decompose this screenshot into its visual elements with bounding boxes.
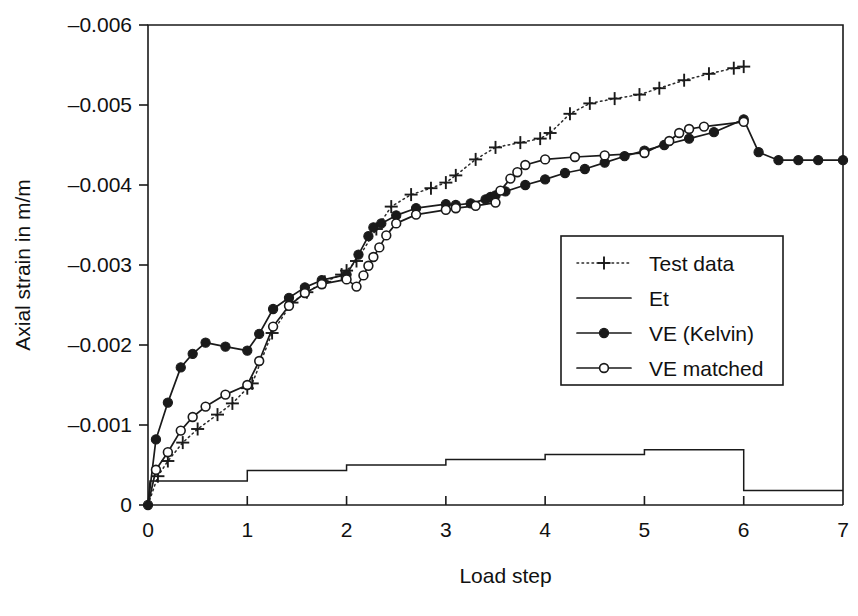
data-point-marker: [188, 413, 197, 422]
data-point-marker: [151, 435, 160, 444]
y-axis-tick-label: –0.002: [68, 333, 132, 356]
data-point-marker: [243, 381, 252, 390]
data-point-marker: [541, 155, 550, 164]
y-axis-tick-label: –0.004: [68, 173, 133, 196]
data-point-marker: [620, 152, 629, 161]
data-point-marker: [709, 128, 718, 137]
data-point-marker: [163, 398, 172, 407]
axis-titles-layer: Load stepAxial strain in m/m: [11, 179, 552, 587]
data-point-marker: [342, 275, 351, 284]
data-point-marker: [640, 149, 649, 158]
data-point-marker: [600, 151, 609, 160]
data-point-marker: [255, 357, 264, 366]
data-point-marker: [176, 363, 185, 372]
data-point-marker: [451, 204, 460, 213]
y-axis-tick-label: 0: [120, 493, 132, 516]
data-point-marker: [794, 156, 803, 165]
data-point-marker: [774, 156, 783, 165]
data-point-marker: [739, 117, 748, 126]
legend-item-label: Test data: [649, 252, 735, 275]
data-point-marker: [300, 289, 309, 298]
x-axis-tick-label: 4: [539, 518, 551, 541]
chart-figure: 0–0.001–0.002–0.003–0.004–0.005–0.006012…: [0, 0, 858, 616]
data-point-marker: [377, 219, 386, 228]
data-point-marker: [665, 137, 674, 146]
data-point-marker: [176, 426, 185, 435]
series-path: [148, 450, 843, 505]
data-point-marker: [255, 329, 264, 338]
data-point-marker: [685, 134, 694, 143]
data-point-marker: [521, 161, 530, 170]
data-point-marker: [364, 261, 373, 270]
data-point-marker: [221, 342, 230, 351]
data-point-marker: [382, 231, 391, 240]
data-point-marker: [754, 148, 763, 157]
data-point-marker: [513, 168, 522, 177]
x-axis-tick-label: 0: [142, 518, 154, 541]
y-axis-tick-label: –0.005: [68, 93, 132, 116]
x-axis-title: Load step: [459, 564, 551, 587]
data-point-marker: [152, 465, 161, 474]
data-point-marker: [375, 243, 384, 252]
y-axis-title: Axial strain in m/m: [11, 179, 34, 351]
y-axis-tick-label: –0.003: [68, 253, 132, 276]
data-point-marker: [814, 156, 823, 165]
x-axis-tick-label: 2: [341, 518, 353, 541]
data-point-marker: [392, 219, 401, 228]
data-point-marker: [441, 205, 450, 214]
data-point-marker: [201, 402, 210, 411]
chart-plot-svg: 0–0.001–0.002–0.003–0.004–0.005–0.006012…: [0, 0, 858, 616]
legend-layer[interactable]: Test dataEtVE (Kelvin)VE matched: [561, 236, 783, 385]
data-point-marker: [521, 180, 530, 189]
data-point-marker: [685, 125, 694, 134]
legend-item-label: VE (Kelvin): [649, 322, 754, 345]
data-point-marker: [675, 129, 684, 138]
data-point-marker: [560, 168, 569, 177]
data-point-marker: [700, 122, 709, 131]
x-axis-tick-label: 1: [241, 518, 253, 541]
legend-item-label: Et: [649, 287, 669, 310]
data-point-marker: [221, 390, 230, 399]
data-point-marker: [412, 210, 421, 219]
data-point-marker: [317, 280, 326, 289]
data-point-marker: [359, 271, 368, 280]
series-et: [148, 450, 843, 505]
y-axis-tick-label: –0.001: [68, 413, 132, 436]
legend-item-label: VE matched: [649, 357, 763, 380]
legend-swatch-marker: [600, 364, 609, 373]
data-point-marker: [354, 250, 363, 259]
data-point-marker: [541, 175, 550, 184]
data-point-marker: [580, 164, 589, 173]
data-point-marker: [243, 346, 252, 355]
data-point-marker: [471, 201, 480, 210]
y-axis-tick-label: –0.006: [68, 13, 132, 36]
x-axis-tick-label: 6: [738, 518, 750, 541]
data-point-marker: [491, 198, 500, 207]
x-axis-tick-label: 5: [639, 518, 651, 541]
data-point-marker: [269, 304, 278, 313]
data-point-marker: [369, 253, 378, 262]
data-point-marker: [352, 282, 361, 291]
data-point-marker: [201, 338, 210, 347]
legend-swatch-marker: [599, 328, 608, 337]
data-point-marker: [188, 349, 197, 358]
data-point-marker: [838, 156, 847, 165]
x-axis-tick-label: 7: [837, 518, 849, 541]
data-point-marker: [496, 186, 505, 195]
data-point-marker: [364, 232, 373, 241]
data-point-marker: [269, 322, 278, 331]
x-axis-tick-label: 3: [440, 518, 452, 541]
data-point-marker: [285, 301, 294, 310]
data-point-marker: [571, 153, 580, 162]
data-point-marker: [163, 448, 172, 457]
